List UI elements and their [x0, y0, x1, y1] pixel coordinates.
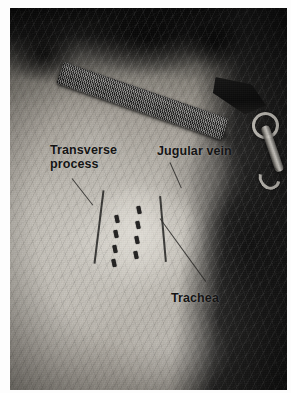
label-jugular-vein: Jugular vein: [157, 145, 232, 159]
anatomy-photograph: Transverse process Jugular vein Trachea: [10, 8, 287, 390]
photo-vignette: [10, 8, 287, 390]
label-transverse-process: Transverse process: [50, 144, 117, 171]
label-trachea: Trachea: [171, 292, 219, 306]
screenshot-root: Transverse process Jugular vein Trachea: [0, 0, 291, 393]
